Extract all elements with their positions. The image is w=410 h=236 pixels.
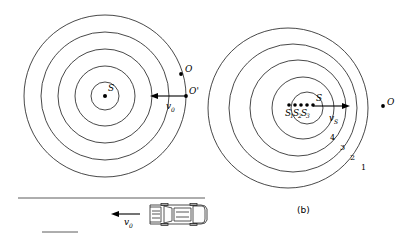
wavefront-number-3: 3 <box>340 143 345 152</box>
car-top-view <box>150 204 207 226</box>
source-label-a: S <box>108 83 114 93</box>
source-point <box>103 94 107 98</box>
source-label-b: S <box>316 93 322 103</box>
source-subscript-s3: 3 <box>306 112 310 119</box>
wavefront-number-1: 1 <box>361 163 366 172</box>
velocity-arrow-b <box>313 103 350 109</box>
car-wheel-fl <box>161 204 168 206</box>
observer-label-o-prime: O' <box>189 86 199 96</box>
car-wheel-fr <box>161 224 168 226</box>
observer-point-o <box>179 72 183 76</box>
observer-label-b: O <box>387 97 395 107</box>
panel-b-group: S 1 S 2 S 3 S v S O 4 3 2 1 <box>208 28 395 215</box>
panel-a-group: S O O' v 0 <box>24 15 199 177</box>
doppler-figure: S O O' v 0 <box>0 0 410 236</box>
source-point-s4 <box>305 103 309 107</box>
velocity-arrow-a <box>150 93 186 99</box>
car-wheel-rr <box>190 224 197 226</box>
wavefront-number-2: 2 <box>350 153 355 162</box>
velocity-subscript-car: 0 <box>129 222 133 229</box>
source-point-s1 <box>287 103 291 107</box>
source-point-s2 <box>293 103 297 107</box>
panel-label-b: (b) <box>297 205 310 215</box>
figure-canvas: S O O' v 0 <box>0 0 410 236</box>
observer-label-o: O <box>185 64 193 74</box>
car-inset-group: v 0 <box>18 198 207 232</box>
velocity-subscript-a: 0 <box>171 106 175 113</box>
source-point-s3 <box>299 103 303 107</box>
car-wheel-rl <box>190 204 197 206</box>
source-history-labels: S 1 S 2 S 3 <box>285 108 310 119</box>
observer-point-b <box>381 104 385 108</box>
wavefront-number-4: 4 <box>330 133 335 142</box>
velocity-subscript-b: S <box>334 118 338 125</box>
